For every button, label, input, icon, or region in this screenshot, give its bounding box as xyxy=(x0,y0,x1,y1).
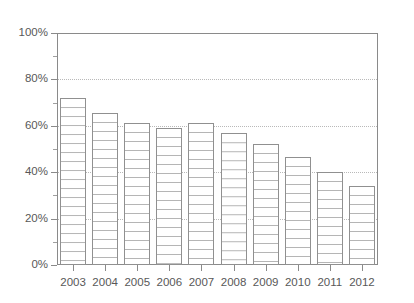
bar-2010 xyxy=(285,157,311,265)
x-tick-2006 xyxy=(169,265,170,271)
x-tick-2011 xyxy=(330,265,331,271)
y-tick-80 xyxy=(51,79,57,80)
x-tick-2012 xyxy=(362,265,363,271)
x-axis-label-2012: 2012 xyxy=(340,276,384,288)
bar-2003 xyxy=(60,98,86,265)
y-tick-minor-70 xyxy=(53,103,57,104)
bar-2004 xyxy=(92,113,118,265)
bar-2006 xyxy=(156,128,182,265)
x-tick-2003 xyxy=(73,265,74,271)
gridline-80 xyxy=(58,79,377,80)
x-tick-2007 xyxy=(201,265,202,271)
x-tick-2010 xyxy=(298,265,299,271)
y-tick-60 xyxy=(51,126,57,127)
bar-2007 xyxy=(188,123,214,265)
y-axis-label-80: 80% xyxy=(25,73,48,85)
bar-2009 xyxy=(253,144,279,265)
bar-2011 xyxy=(317,172,343,265)
x-tick-2004 xyxy=(105,265,106,271)
y-axis-label-40: 40% xyxy=(25,166,48,178)
y-tick-0 xyxy=(51,265,57,266)
y-axis-label-0: 0% xyxy=(31,259,48,271)
y-tick-minor-30 xyxy=(53,195,57,196)
bar-chart: 0%20%40%60%80%100% 200320042005200620072… xyxy=(0,0,414,303)
bar-2012 xyxy=(349,186,375,265)
y-tick-40 xyxy=(51,172,57,173)
x-tick-2005 xyxy=(137,265,138,271)
y-tick-100 xyxy=(51,33,57,34)
y-tick-20 xyxy=(51,219,57,220)
y-tick-minor-50 xyxy=(53,149,57,150)
bar-2005 xyxy=(124,123,150,265)
y-axis-label-20: 20% xyxy=(25,213,48,225)
y-tick-minor-90 xyxy=(53,56,57,57)
y-tick-minor-10 xyxy=(53,242,57,243)
x-tick-2008 xyxy=(234,265,235,271)
bar-2008 xyxy=(221,133,247,265)
y-axis-label-60: 60% xyxy=(25,120,48,132)
y-axis-label-100: 100% xyxy=(19,27,48,39)
x-tick-2009 xyxy=(266,265,267,271)
